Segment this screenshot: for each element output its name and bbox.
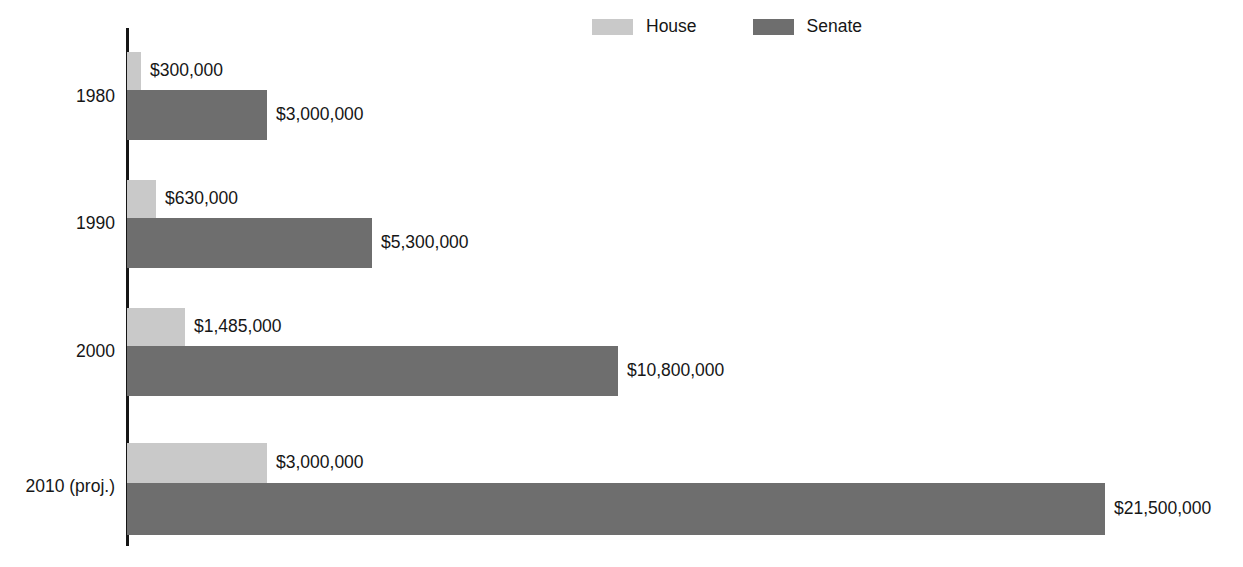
bar-rect-senate-1980 bbox=[127, 90, 267, 140]
bar-value-house-1980: $300,000 bbox=[150, 62, 223, 80]
bar-rect-house-1980 bbox=[127, 52, 141, 90]
category-label-1990: 1990 bbox=[0, 215, 115, 233]
bar-rect-house-1990 bbox=[127, 180, 156, 218]
bar-value-senate-2010: $21,500,000 bbox=[1114, 500, 1211, 518]
bar-rect-house-2000 bbox=[127, 308, 185, 346]
category-label-2000: 2000 bbox=[0, 343, 115, 361]
bar-house-2000: $1,485,000 bbox=[127, 308, 185, 346]
bar-senate-2000: $10,800,000 bbox=[127, 346, 618, 396]
plot-area: 1980 $300,000 $3,000,000 1990 $630,000 $… bbox=[0, 0, 1243, 567]
bar-rect-senate-2000 bbox=[127, 346, 618, 396]
bar-rect-senate-1990 bbox=[127, 218, 372, 268]
bar-value-house-2010: $3,000,000 bbox=[276, 454, 364, 472]
bar-value-house-2000: $1,485,000 bbox=[194, 318, 282, 336]
category-label-1980: 1980 bbox=[0, 88, 115, 106]
category-label-2010: 2010 (proj.) bbox=[0, 478, 115, 496]
bar-value-senate-2000: $10,800,000 bbox=[627, 362, 724, 380]
bar-rect-house-2010 bbox=[127, 443, 267, 483]
bar-rect-senate-2010 bbox=[127, 483, 1105, 535]
bar-value-senate-1990: $5,300,000 bbox=[381, 234, 469, 252]
bar-house-2010: $3,000,000 bbox=[127, 443, 267, 483]
bar-senate-2010: $21,500,000 bbox=[127, 483, 1105, 535]
bar-value-house-1990: $630,000 bbox=[165, 190, 238, 208]
bar-value-senate-1980: $3,000,000 bbox=[276, 106, 364, 124]
bar-house-1990: $630,000 bbox=[127, 180, 156, 218]
bar-senate-1990: $5,300,000 bbox=[127, 218, 372, 268]
bar-chart: House Senate 1980 $300,000 $3,000,000 19… bbox=[0, 0, 1243, 567]
bar-senate-1980: $3,000,000 bbox=[127, 90, 267, 140]
bar-house-1980: $300,000 bbox=[127, 52, 141, 90]
